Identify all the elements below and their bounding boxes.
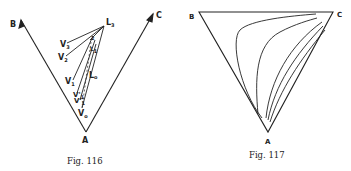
figure-117: [199, 12, 333, 132]
vertex-c-117: C: [337, 11, 342, 19]
point-v3: V3: [60, 40, 70, 50]
point-v0: Vo: [78, 109, 88, 119]
arrow-b-icon: [19, 20, 24, 28]
axis-ac: [86, 14, 153, 132]
figures-canvas: B C A L3 2 L1 Lo V3 V2 V1 V'1 V'1 Vo Fig…: [0, 0, 351, 171]
point-l2: 2: [91, 35, 95, 41]
caption-fig-117: Fig. 117: [249, 150, 285, 160]
curve-2: [257, 18, 317, 114]
vertex-a-117: A: [265, 138, 271, 146]
vertex-b: B: [10, 20, 16, 29]
vertex-c: C: [156, 11, 162, 20]
caption-fig-116: Fig. 116: [67, 156, 103, 166]
point-l3: L3: [106, 18, 115, 28]
point-v2: V2: [58, 53, 68, 63]
arrow-c-icon: [147, 14, 153, 22]
vertex-a: A: [82, 136, 89, 145]
triangle-abc: [199, 12, 333, 132]
vertex-b-117: B: [189, 13, 194, 21]
curve-5: [270, 30, 325, 122]
axis-ab: [21, 20, 86, 132]
point-l0: Lo: [89, 71, 98, 80]
